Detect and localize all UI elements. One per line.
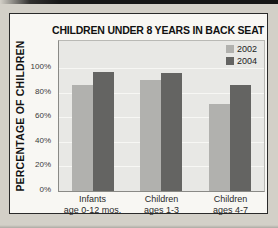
x-axis-category-labels: Infantsage 0-12 mos.Childrenages 1-3Chil… (58, 194, 265, 215)
y-tick-label-20: 20% (35, 160, 51, 169)
bar-2004-group2 (161, 73, 182, 191)
category-label-3: Childrenages 4-7 (196, 194, 265, 215)
y-tick-label-60: 60% (35, 111, 51, 120)
y-tick-label-40: 40% (35, 136, 51, 145)
page-background: CHILDREN UNDER 8 YEARS IN BACK SEAT PERC… (0, 0, 278, 228)
y-tick-label-100: 100% (31, 62, 51, 71)
chart-panel: CHILDREN UNDER 8 YEARS IN BACK SEAT PERC… (9, 13, 268, 214)
plot-area: 20022004 (58, 40, 265, 192)
category-label-1: Infantsage 0-12 mos. (58, 194, 127, 215)
bar-2002-group2 (140, 80, 161, 191)
chart-title: CHILDREN UNDER 8 YEARS IN BACK SEAT (50, 24, 266, 36)
bar-group-1 (72, 72, 114, 191)
y-tick-label-80: 80% (35, 87, 51, 96)
bar-2002-group3 (209, 104, 230, 191)
bar-2004-group1 (93, 72, 114, 191)
category-label-line: Children (196, 194, 265, 205)
bar-2004-group3 (230, 85, 251, 191)
y-axis-ticks: 0%20%40%60%80%100% (10, 40, 55, 190)
legend-swatch-2004 (226, 57, 234, 65)
bar-2002-group1 (72, 85, 93, 191)
legend-item-2004: 2004 (226, 56, 257, 66)
bar-group-3 (209, 85, 251, 191)
category-label-line: Children (127, 194, 196, 205)
legend-swatch-2002 (226, 45, 234, 53)
page-bottom-edge (0, 225, 278, 228)
page-top-edge (0, 0, 278, 4)
legend-label-2004: 2004 (237, 56, 257, 66)
category-label-line: ages 1-3 (127, 205, 196, 216)
legend-label-2002: 2002 (237, 44, 257, 54)
chart-legend: 20022004 (226, 44, 257, 66)
legend-item-2002: 2002 (226, 44, 257, 54)
category-label-line: age 0-12 mos. (58, 205, 127, 216)
category-label-line: ages 4-7 (196, 205, 265, 216)
y-tick-label-0: 0% (39, 185, 51, 194)
category-label-line: Infants (58, 194, 127, 205)
category-label-2: Childrenages 1-3 (127, 194, 196, 215)
bar-group-2 (140, 73, 182, 191)
